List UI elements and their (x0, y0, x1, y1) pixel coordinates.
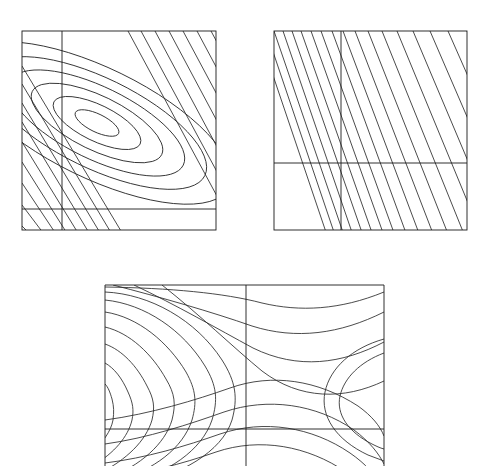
panel3-upper-branches (105, 285, 384, 394)
panel3-contour-group (90, 285, 384, 466)
contour-figure (0, 0, 483, 466)
panel-bottom-contour-plot (0, 0, 483, 466)
panel3-left-lobe-family (90, 292, 235, 466)
